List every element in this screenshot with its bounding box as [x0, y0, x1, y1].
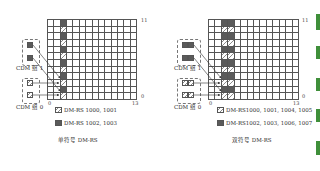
green-bar [316, 141, 320, 155]
legend-text: DM-RS 1000, 1001 [64, 107, 117, 113]
green-bar [316, 109, 320, 122]
legend-swatch-hatch [55, 107, 62, 113]
legend-text: DM-RS 1002, 1003 [64, 120, 117, 126]
legend-swatch-hatch [217, 107, 224, 113]
legend-dark: DM-RS1002, 1003, 1006, 1007 [217, 120, 312, 126]
caption-double: 双符号 DM-RS [232, 136, 272, 144]
mapping-arrows [160, 0, 320, 171]
mapping-arrows [0, 0, 160, 171]
legend-text: DM-RS1000, 1001, 1004, 1005 [226, 107, 312, 113]
panel-single-symbol: 11 0 0 13 CDM 组 1 CDM 组 0 DM-RS 1000, 10… [0, 0, 160, 171]
green-bar [316, 78, 320, 91]
green-bar [316, 46, 320, 59]
caption-single: 单符号 DM-RS [58, 136, 98, 144]
green-bar [316, 14, 320, 30]
legend-swatch-dark [55, 120, 62, 126]
legend-swatch-dark [217, 120, 224, 126]
legend-hatch: DM-RS 1000, 1001 [55, 107, 117, 113]
legend-dark: DM-RS 1002, 1003 [55, 120, 117, 126]
panel-double-symbol: 11 0 0 13 CDM 组 1 CDM 组 0 DM-RS1000, 100… [160, 0, 320, 171]
legend-hatch: DM-RS1000, 1001, 1004, 1005 [217, 107, 312, 113]
legend-text: DM-RS1002, 1003, 1006, 1007 [226, 120, 312, 126]
